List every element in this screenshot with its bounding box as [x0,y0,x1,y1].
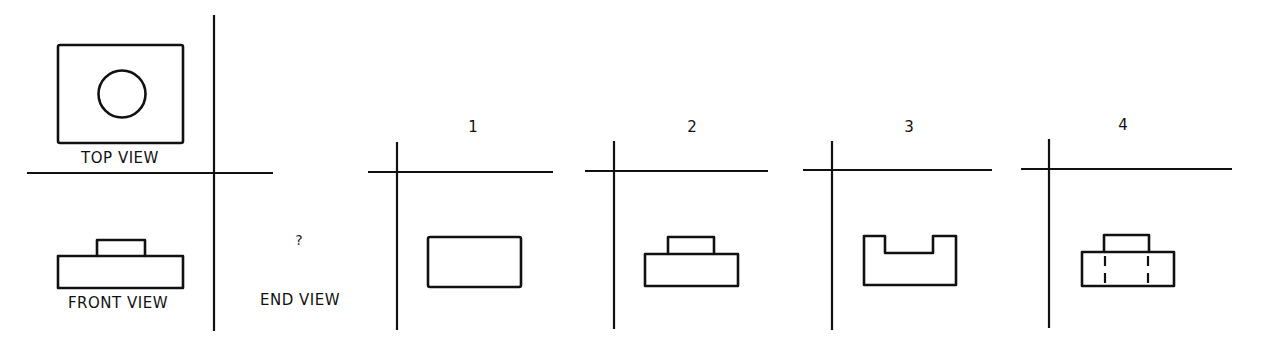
option-4-number: 4 [1118,118,1128,133]
option-1-drawing [368,142,553,330]
option-1-number: 1 [468,120,478,135]
end-view-label: END VIEW [260,293,340,308]
diagram-drawing [0,0,1262,354]
option-3-drawing [803,141,992,330]
option-3-shape [864,236,956,285]
front-view-label: FRONT VIEW [68,296,168,311]
option-2-shape [645,237,738,286]
top-view-label: TOP VIEW [81,151,159,166]
option-4-shape [1082,235,1174,286]
orthographic-diagram: TOP VIEW FRONT VIEW END VIEW ? 1 2 3 4 [0,0,1262,354]
front-view-outline [58,240,183,288]
option-2-drawing [585,141,768,329]
given-views-axes [27,15,273,331]
option-1-shape [428,237,521,287]
option-2-number: 2 [687,120,697,135]
front-view-drawing [58,240,183,288]
top-view-drawing [58,45,183,143]
option-3-number: 3 [904,120,914,135]
top-view-circle [99,71,146,118]
option-4-drawing [1021,139,1232,328]
end-view-unknown-marker: ? [295,233,302,247]
top-view-outline [58,45,183,143]
